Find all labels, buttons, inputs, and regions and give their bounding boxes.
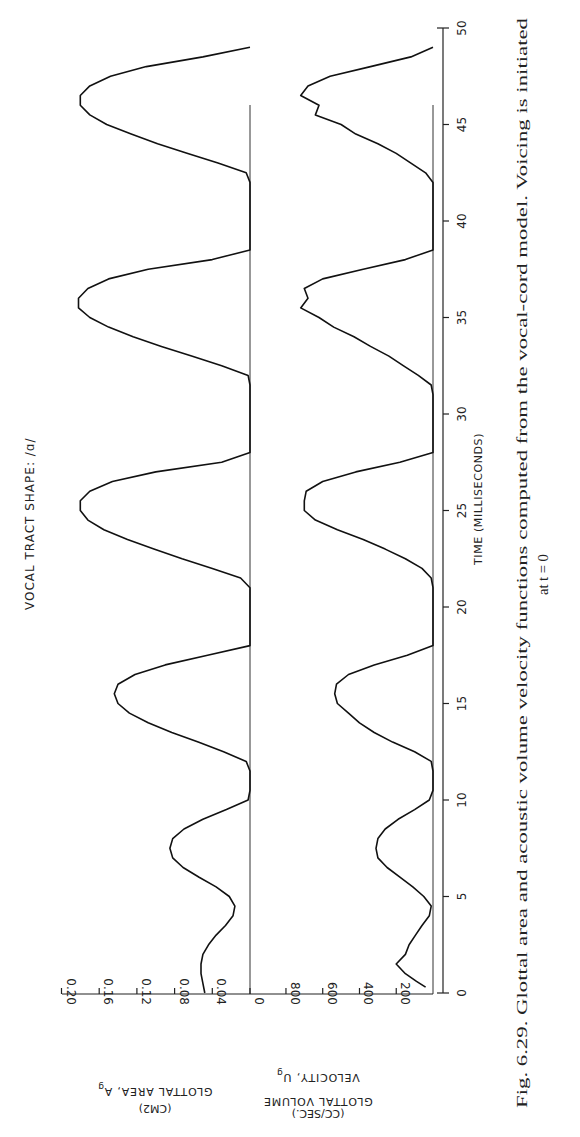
time-tick-label: 20 (455, 599, 469, 614)
value-axis: 00.040.080.120.160.20200400600800 (62, 978, 434, 1005)
figure: VOCAL TRACT SHAPE: /ɑ/ 00.040.080.120.16… (0, 0, 580, 1137)
time-tick-label: 30 (455, 406, 469, 421)
velocity-axis-label: GLOTTAL VOLUME VELOCITY, Ug (CC/SEC.) (263, 1068, 373, 1120)
volume-velocity-trace (301, 47, 433, 987)
svg-text:GLOTTAL AREA, Ag: GLOTTAL AREA, Ag (97, 1082, 212, 1098)
value-tick-label: 0.08 (177, 978, 191, 1005)
figure-caption-line2: at t = 0 (535, 554, 551, 595)
time-axis: 05101520253035404550 (437, 20, 469, 996)
glottal-area-trace (79, 47, 251, 993)
value-tick-label: 0.04 (214, 978, 228, 1005)
time-tick-label: 45 (455, 117, 469, 132)
value-tick-label: 0 (252, 997, 266, 1005)
svg-text:(CM2): (CM2) (139, 1102, 172, 1115)
value-tick-label: 0.16 (101, 978, 115, 1005)
value-tick-label: 200 (398, 982, 412, 1005)
figure-title: VOCAL TRACT SHAPE: /ɑ/ (23, 438, 37, 610)
time-tick-label: 50 (455, 20, 469, 35)
value-tick-label: 400 (361, 982, 375, 1005)
time-tick-label: 40 (455, 213, 469, 228)
value-tick-label: 0.12 (139, 978, 153, 1005)
time-axis-label: TIME (MILLISECONDS) (472, 433, 485, 566)
svg-text:(CC/SEC.): (CC/SEC.) (292, 1107, 345, 1120)
time-tick-label: 5 (455, 893, 469, 901)
time-tick-label: 25 (455, 503, 469, 518)
figure-caption-line1: Fig. 6.29. Glottal area and acoustic vol… (514, 17, 530, 1108)
svg-text:GLOTTAL VOLUME: GLOTTAL VOLUME (263, 1095, 373, 1108)
area-axis-label: GLOTTAL AREA, Ag (CM2) (97, 1082, 212, 1115)
time-tick-label: 0 (455, 989, 469, 997)
value-tick-label: 800 (288, 982, 302, 1005)
value-tick-label: 0.20 (64, 978, 78, 1005)
time-tick-label: 10 (455, 792, 469, 807)
svg-text:VELOCITY, Ug: VELOCITY, Ug (276, 1068, 360, 1084)
value-tick-label: 600 (325, 982, 339, 1005)
time-tick-label: 15 (455, 696, 469, 711)
time-tick-label: 35 (455, 310, 469, 325)
